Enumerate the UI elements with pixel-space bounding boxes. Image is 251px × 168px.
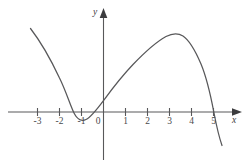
x-tick-label-5: 5 — [206, 117, 222, 127]
x-tick-label-1: 1 — [118, 117, 134, 127]
x-tick-label--2: -2 — [52, 117, 68, 127]
y-axis-arrow-icon — [100, 8, 108, 18]
x-tick-label-0: 0 — [90, 117, 106, 127]
graph-figure: -3 -2 -1 0 1 2 3 4 5 x y — [0, 0, 251, 168]
x-axis-label: x — [232, 116, 236, 126]
x-tick-label-4: 4 — [184, 117, 200, 127]
x-tick-label-2: 2 — [140, 117, 156, 127]
curve-path — [31, 29, 223, 146]
x-tick-label--3: -3 — [30, 117, 46, 127]
y-axis-label: y — [93, 8, 97, 18]
x-tick-label-3: 3 — [162, 117, 178, 127]
x-tick-label--1: -1 — [74, 117, 90, 127]
cubic-curve-plot — [0, 0, 251, 168]
